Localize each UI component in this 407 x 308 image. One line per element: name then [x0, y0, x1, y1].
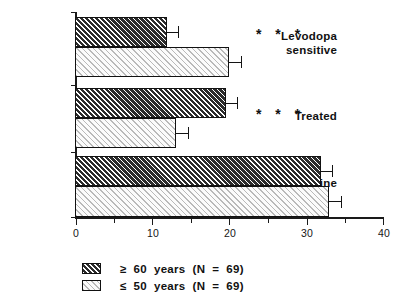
chart-legend: ≥ 60 years (N = 69) ≤ 50 years (N = 69): [82, 261, 342, 295]
significance-marker-treated: * * *: [256, 107, 305, 121]
x-axis-tick-major: [383, 218, 384, 225]
y-axis-tick: [71, 85, 76, 86]
legend-swatch-dark-hatch-icon: [82, 263, 101, 275]
x-axis-label-0: 0: [73, 227, 79, 239]
bar-levodopa-sensitive-under50: [75, 47, 229, 77]
x-axis-tick-major: [307, 218, 308, 225]
bar-treated-over60: [75, 88, 226, 118]
x-axis-label-10: 10: [147, 227, 159, 239]
x-axis-tick-major: [152, 218, 153, 225]
y-axis-tick: [71, 152, 76, 153]
error-bar-cap: [241, 56, 242, 68]
x-axis-label-30: 30: [301, 227, 313, 239]
x-axis-label-40: 40: [378, 227, 390, 239]
error-bar-cap: [332, 165, 333, 177]
bar-baseline-under50: [75, 186, 329, 217]
significance-marker-levodopa-sensitive: * * *: [256, 27, 305, 41]
x-axis-tick-major: [229, 218, 230, 225]
legend-item-under-50: ≤ 50 years (N = 69): [82, 278, 342, 293]
x-axis-tick-major: [76, 218, 77, 225]
plot-area: Levodopa sensitive * * * Treated * * * B…: [0, 0, 407, 232]
y-axis-tick: [71, 12, 76, 13]
x-axis-tick-minor: [114, 218, 115, 223]
x-axis-label-20: 20: [224, 227, 236, 239]
legend-swatch-light-hatch-icon: [82, 280, 101, 292]
error-bar-cap: [341, 196, 342, 208]
x-axis-tick-minor: [345, 218, 346, 223]
x-axis-tick-minor: [191, 218, 192, 223]
error-bar-cap: [178, 26, 179, 38]
error-bar-cap: [188, 127, 189, 139]
legend-label-over-60: ≥ 60 years (N = 69): [120, 263, 244, 275]
legend-item-over-60: ≥ 60 years (N = 69): [82, 261, 342, 276]
legend-label-under-50: ≤ 50 years (N = 69): [120, 280, 244, 292]
bar-levodopa-sensitive-over60: [75, 17, 167, 47]
error-bar-cap: [237, 97, 238, 109]
x-axis-tick-minor: [268, 218, 269, 223]
bar-baseline-over60: [75, 156, 321, 186]
bar-treated-under50: [75, 118, 176, 148]
chart-figure: Levodopa sensitive * * * Treated * * * B…: [0, 0, 407, 308]
